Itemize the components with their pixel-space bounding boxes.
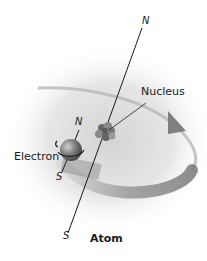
electron-north-label: N [75, 117, 82, 127]
electron-label: Electron [14, 151, 59, 162]
orbit-band-front-tail [62, 164, 100, 172]
electron-south-label: S [56, 172, 62, 182]
electron-icon [60, 139, 82, 161]
nucleus-north-label: N [142, 16, 149, 26]
atom-illustration [0, 0, 207, 261]
nucleus-south-label: S [63, 231, 69, 241]
diagram-title: Atom [90, 233, 123, 244]
atom-diagram: N Nucleus N Electron S S Atom [0, 0, 207, 261]
nucleus-label: Nucleus [141, 86, 185, 97]
